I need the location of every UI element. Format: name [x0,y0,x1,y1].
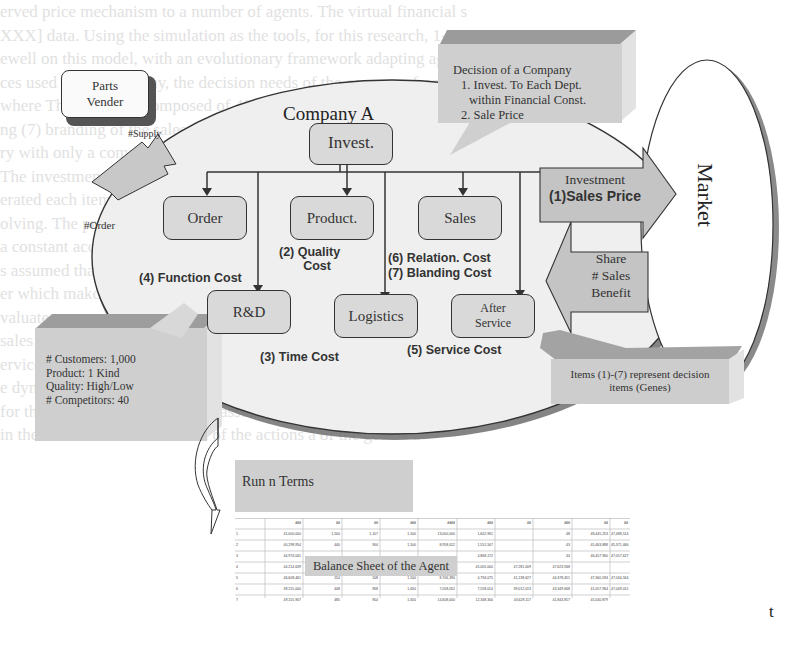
balance-sheet-cell: 41,000,000 [266,532,301,536]
balance-sheet-cell: 43,628,117 [496,598,531,602]
balance-sheet-cell: 49,155,907 [266,598,301,602]
decision-item2: 2. Sale Price [453,108,586,123]
function-cost-label: (4) Function Cost [139,271,242,285]
balance-sheet-cell: 1,602,961 [458,532,493,536]
balance-sheet-cell: 47,488,514 [611,532,628,536]
balance-sheet-cell: 1,107 [343,532,378,536]
balance-sheet-cell: 904 [343,598,378,602]
balance-sheet-label: Balance Sheet of the Agent [313,559,449,574]
decision-title: Decision of a Company [453,63,586,78]
time-cost-label: (3) Time Cost [260,350,339,364]
balance-sheet-cell: 448 [304,587,340,591]
balance-sheet-cell: 7,058,052 [419,587,455,591]
parts-vender-node: Parts Vender [61,70,149,118]
balance-sheet-cell: 1,650 [381,587,416,591]
balance-sheet-cell: 4,868,172 [458,554,493,558]
balance-sheet-cell: 41,057,964 [573,587,608,591]
market-label: Market [692,150,718,240]
balance-sheet-cell: 47,623,948 [534,565,570,569]
balance-sheet-header-cell: ## [343,521,378,525]
balance-sheet-cell: 44,378,451 [534,576,570,580]
balance-sheet-cell: 1,500 [304,532,340,536]
after-service-node: After Service [451,294,535,338]
company-title: Company A [283,103,374,125]
page-fragment-text: t [769,602,774,622]
balance-sheet-header-cell: ### [458,521,493,525]
sales-price-label: (1)Sales Price [540,188,650,204]
balance-sheet-cell: 485 [304,598,340,602]
balance-sheet-cell: 45,371,466 [611,543,628,547]
balance-sheet-cell: 39,012,013 [496,587,531,591]
blanding-cost-label: (7) Blanding Cost [388,266,491,280]
balance-sheet-cell: 48 [534,532,570,536]
balance-sheet-cell: 43 [534,543,570,547]
balance-sheet-cell: 13,000,000 [419,532,455,536]
balance-sheet-cell: 4,794,075 [458,576,493,580]
balance-sheet-cell: 46,457,960 [573,554,608,558]
balance-sheet-cell: 1,650 [381,598,416,602]
order-label: #Order [84,218,115,232]
balance-sheet-cell: 41,138,627 [496,576,531,580]
balance-sheet-cell: 14,608,000 [419,598,455,602]
genes-callout-text: Items (1)-(7) represent decision items (… [551,368,729,394]
balance-sheet-header-cell: ### [534,521,570,525]
balance-sheet-cell: 44 [534,554,570,558]
balance-sheet-cell: 4 [236,565,263,569]
product-node: Product. [290,196,374,240]
balance-sheet-header-cell: ### [381,521,416,525]
supply-label: #Supply [128,127,161,141]
balance-sheet-header-cell: ## [496,521,531,525]
balance-sheet-cell: 7 [236,598,263,602]
balance-sheet-cell: 1,551,567 [458,543,493,547]
parts-vender-line1: Parts [92,78,118,94]
decision-item1a: 1. Invest. To Each Dept. [453,78,586,93]
balance-sheet-cell: 44,214,639 [266,565,301,569]
balance-sheet-cell: 45,463,888 [573,543,608,547]
balance-sheet-cell: 440 [304,543,340,547]
balance-sheet-cell: 40,298,954 [266,543,301,547]
balance-sheet-header-cell: ## [304,521,340,525]
balance-sheet-cell: 48,445,253 [573,532,608,536]
share-arrow-text: Share # Sales Benefit [575,250,647,301]
balance-sheet-cell: 8,958,012 [419,543,455,547]
balance-sheet-cell: 47,360,594 [573,576,608,580]
balance-sheet-table: ##########################141,000,0001,5… [235,518,630,600]
after-service-line1: After [480,301,505,316]
run-terms-label: Run n Terms [242,474,314,490]
balance-sheet-cell: 47,281,009 [496,565,531,569]
balance-sheet-cell: 44,974,041 [266,554,301,558]
balance-sheet-cell: 46,608,461 [266,576,301,580]
product-node-label: Product. [307,210,357,227]
balance-sheet-cell: 8,706,390 [419,576,455,580]
quality-cost-label: (2) Quality Cost [279,245,340,273]
balance-sheet-cell: 2 [236,543,263,547]
investment-label: Investment [540,172,650,188]
balance-sheet-cell: 7,558,014 [458,587,493,591]
logistics-node-label: Logistics [349,308,404,325]
after-service-line2: Service [475,316,511,331]
balance-sheet-header-cell: ## [573,521,608,525]
balance-sheet-cell: 904 [343,543,378,547]
parts-vender-line2: Vender [87,94,124,110]
balance-sheet-cell: 1,500 [381,532,416,536]
balance-sheet-cell: 43,349,668 [534,587,570,591]
balance-sheet-cell: 1,500 [381,576,416,580]
logistics-node: Logistics [334,294,418,338]
order-node: Order [163,196,247,240]
balance-sheet-cell: 108 [343,576,378,580]
balance-sheet-cell: 6 [236,587,263,591]
rnd-node-label: R&D [233,304,266,321]
balance-sheet-cell: 5 [236,576,263,580]
balance-sheet-header-cell: ### [266,521,301,525]
balance-sheet-cell: 3 [236,554,263,558]
balance-sheet-cell: 47,049,015 [611,587,628,591]
order-node-label: Order [188,210,223,227]
balance-sheet-cell: 47,034,564 [611,576,628,580]
balance-sheet-cell: 41,843,817 [534,598,570,602]
decision-callout-text: Decision of a Company 1. Invest. To Each… [453,63,586,123]
balance-sheet-label-box: Balance Sheet of the Agent [305,556,457,576]
balance-sheet-cell: 968 [343,587,378,591]
balance-sheet-cell: 45,005,000 [458,565,493,569]
decision-item1b: within Financial Const. [453,93,586,108]
rnd-node: R&D [207,290,291,334]
